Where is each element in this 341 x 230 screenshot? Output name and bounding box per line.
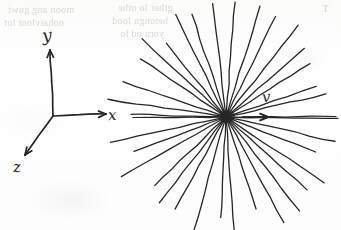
burst-ray — [229, 25, 298, 113]
burst-ray — [231, 119, 316, 152]
burst-ray — [230, 48, 305, 113]
diagram-canvas — [0, 0, 341, 230]
radial-burst-group — [108, 2, 338, 230]
burst-ray — [121, 119, 221, 176]
burst-ray — [228, 16, 275, 112]
burst-ray — [231, 118, 335, 141]
scanned-notebook-page: moon ang guwtnohaivlont lotgther lo othe… — [0, 0, 341, 230]
burst-ray — [134, 119, 221, 152]
velocity-arrow-group — [243, 114, 268, 121]
velocity-arrow — [243, 114, 268, 121]
coordinate-axes-group — [25, 50, 106, 155]
burst-center-smudge — [219, 109, 235, 122]
burst-ray — [229, 121, 299, 211]
z-axis — [25, 116, 53, 155]
burst-ray — [221, 122, 226, 218]
burst-ray — [231, 86, 316, 115]
x-axis — [53, 111, 106, 117]
y-axis — [47, 50, 53, 116]
burst-ray — [131, 114, 221, 117]
burst-ray — [226, 2, 235, 112]
burst-ray — [230, 120, 307, 190]
burst-ray — [175, 121, 223, 209]
